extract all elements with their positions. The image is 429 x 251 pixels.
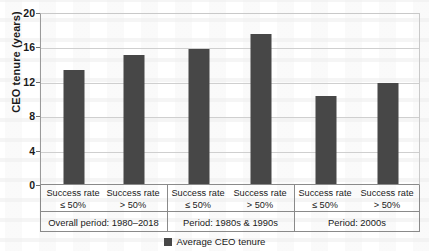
group-label-overall-period: Overall period: 1980–2018 bbox=[40, 212, 167, 232]
group-separator-1 bbox=[167, 185, 168, 232]
category-label-5: Success rate > 50% bbox=[347, 185, 427, 212]
category-label-4-line1: Success rate bbox=[298, 187, 351, 199]
group-label-band: Overall period: 1980–2018 Period: 1980s … bbox=[40, 212, 420, 232]
category-label-5-line1: Success rate bbox=[360, 187, 413, 199]
y-tick-label-12: 12 bbox=[9, 76, 35, 88]
bar-5[interactable] bbox=[378, 83, 399, 184]
bars-layer bbox=[41, 14, 419, 184]
category-label-0-line2: ≤ 50% bbox=[60, 199, 86, 211]
group-label-1980s-1990s: Period: 1980s & 1990s bbox=[167, 212, 294, 232]
y-tick-label-4: 4 bbox=[9, 145, 35, 157]
category-label-2-line2: ≤ 50% bbox=[185, 199, 211, 211]
category-label-2-line1: Success rate bbox=[171, 187, 224, 199]
bar-3[interactable] bbox=[251, 34, 272, 184]
bar-1[interactable] bbox=[124, 55, 145, 184]
legend: Average CEO tenure bbox=[0, 236, 429, 247]
y-tick-label-20: 20 bbox=[9, 7, 35, 19]
category-label-4-line2: ≤ 50% bbox=[312, 199, 338, 211]
category-label-3-line2: > 50% bbox=[247, 199, 273, 211]
group-separator-2 bbox=[294, 185, 295, 232]
y-tick-label-8: 8 bbox=[9, 110, 35, 122]
label-band-left-edge bbox=[40, 185, 41, 232]
category-label-1-line1: Success rate bbox=[106, 187, 159, 199]
legend-label-average-ceo-tenure: Average CEO tenure bbox=[177, 236, 266, 247]
label-band-right-edge bbox=[419, 185, 420, 232]
category-label-3-line1: Success rate bbox=[233, 187, 286, 199]
category-label-5-line2: > 50% bbox=[374, 199, 400, 211]
bar-2[interactable] bbox=[189, 49, 210, 184]
bar-chart: CEO tenure (years) 20 16 12 8 4 0 Succes… bbox=[0, 0, 429, 251]
y-tick-label-0: 0 bbox=[9, 179, 35, 191]
bar-4[interactable] bbox=[316, 96, 337, 184]
category-label-0-line1: Success rate bbox=[46, 187, 99, 199]
plot-area bbox=[40, 13, 420, 185]
legend-swatch-icon bbox=[164, 238, 172, 246]
group-label-2000s: Period: 2000s bbox=[294, 212, 420, 232]
bar-0[interactable] bbox=[64, 70, 85, 184]
y-tick-label-16: 16 bbox=[9, 41, 35, 53]
category-label-band: Success rate ≤ 50% Success rate > 50% Su… bbox=[40, 185, 420, 212]
category-label-1-line2: > 50% bbox=[120, 199, 146, 211]
